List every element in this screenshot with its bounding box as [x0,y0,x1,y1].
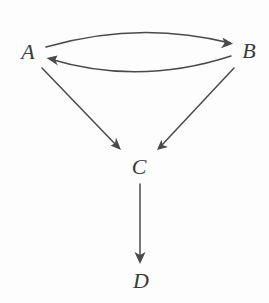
edge-b-to-c-path [161,68,234,146]
edge-b-to-c [157,68,234,150]
edge-a-to-b-path [46,32,230,47]
edge-c-to-d [135,184,146,264]
edge-a-to-b [46,32,233,48]
graph-svg [0,0,269,303]
node-label-c: C [132,156,147,178]
edge-b-to-a [47,56,232,72]
edge-a-to-c-arrowhead-icon [111,138,122,151]
diagram-canvas: A B C D [0,0,269,303]
edge-a-to-c-path [42,68,117,146]
edge-a-to-b-arrowhead-icon [221,38,233,49]
node-label-b: B [242,40,255,62]
node-label-a: A [21,41,34,63]
edge-b-to-a-path [50,56,231,72]
node-label-d: D [133,270,149,292]
edge-a-to-c [42,68,121,150]
